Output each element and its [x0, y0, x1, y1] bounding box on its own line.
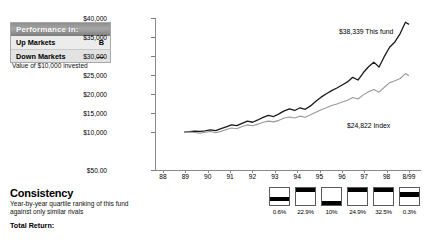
quartile-box — [347, 187, 368, 206]
quartile-return-pct: 0.3% — [399, 208, 420, 215]
quartile-segment-4 — [270, 201, 289, 205]
x-axis-tick-label: 90 — [204, 173, 211, 180]
quartile-return-pct: 22.9% — [295, 208, 316, 215]
quartile-box — [321, 187, 342, 206]
quartile-box — [399, 187, 420, 206]
y-axis-tick-label: $35,000 — [63, 34, 107, 41]
y-axis-tick — [151, 170, 155, 171]
x-axis-tick-label: 8/99 — [403, 173, 416, 180]
quartile-cell: 0.3% — [399, 187, 420, 215]
x-axis-tick-label: 98 — [383, 173, 390, 180]
series-lines — [155, 18, 421, 170]
x-axis-tick-label: 89 — [182, 173, 189, 180]
y-axis-tick-label: $50.00 — [63, 167, 107, 174]
consistency-section: Consistency Year-by-year quartile rankin… — [10, 187, 190, 230]
up-markets-label: Up Markets — [16, 38, 55, 47]
quartile-box — [373, 187, 394, 206]
growth-chart: $40,000$35,000$30,000$25,000$20,000$15,0… — [107, 14, 425, 184]
y-axis-tick-label: $15,000 — [63, 110, 107, 117]
consistency-subtitle: Year-by-year quartile ranking of this fu… — [10, 200, 136, 216]
x-axis-tick — [208, 170, 209, 173]
x-axis-tick-label: 96 — [338, 173, 345, 180]
fund-performance-panel: Performance in: Up Markets B Down Market… — [0, 0, 431, 242]
x-axis-tick-label: 91 — [226, 173, 233, 180]
x-axis-tick-label: 94 — [294, 173, 301, 180]
x-axis-tick — [230, 170, 231, 173]
quartile-return-pct: 0.6% — [269, 208, 290, 215]
quartile-segment-4 — [296, 201, 315, 205]
x-axis-tick — [185, 170, 186, 173]
x-axis-tick — [409, 170, 410, 173]
x-axis-tick-label: 97 — [361, 173, 368, 180]
quartile-cell: 0.6% — [269, 187, 290, 215]
x-axis-tick-label: 93 — [271, 173, 278, 180]
quartile-return-pct: 32.5% — [373, 208, 394, 215]
consistency-title: Consistency — [10, 187, 190, 199]
quartile-cell: 24.9% — [347, 187, 368, 215]
y-axis-tick-label: $40,000 — [63, 15, 107, 22]
x-axis-tick — [252, 170, 253, 173]
quartile-return-pct: 10% — [321, 208, 342, 215]
x-axis-tick — [364, 170, 365, 173]
quartile-cell: 32.5% — [373, 187, 394, 215]
quartile-return-pct: 24.9% — [347, 208, 368, 215]
annotation-this-fund: $38,339 This fund — [339, 28, 393, 35]
x-axis-tick — [387, 170, 388, 173]
plot-area — [155, 18, 421, 170]
down-markets-label: Down Markets — [16, 52, 65, 61]
series-line-this-fund — [184, 22, 409, 132]
quartile-segment-4 — [400, 201, 419, 205]
y-axis-tick-label: $25,000 — [63, 72, 107, 79]
quartile-segment-4 — [348, 201, 367, 205]
x-axis-tick-label: 92 — [249, 173, 256, 180]
y-axis-tick-label: $30,000 — [63, 53, 107, 60]
y-axis-tick-label: $10,000 — [63, 129, 107, 136]
x-axis-tick — [275, 170, 276, 173]
x-axis-tick-label: 95 — [316, 173, 323, 180]
annotation-index: $24,822 Index — [347, 122, 390, 129]
total-return-label: Total Return: — [10, 221, 190, 230]
x-axis-tick — [320, 170, 321, 173]
x-axis-tick — [163, 170, 164, 173]
x-axis-line — [155, 170, 421, 171]
quartile-segment-4 — [322, 201, 341, 205]
quartile-segment-4 — [374, 201, 393, 205]
x-axis-tick — [342, 170, 343, 173]
y-axis-tick-label: $20,000 — [63, 91, 107, 98]
quartile-rank-row: 0.6%22.9%10%24.9%32.5%0.3% — [269, 187, 420, 215]
quartile-cell: 10% — [321, 187, 342, 215]
quartile-box — [269, 187, 290, 206]
x-axis-tick — [297, 170, 298, 173]
x-axis-tick-label: 88 — [159, 173, 166, 180]
quartile-box — [295, 187, 316, 206]
quartile-cell: 22.9% — [295, 187, 316, 215]
chart-caption: Value of $10,000 invested — [12, 62, 88, 69]
